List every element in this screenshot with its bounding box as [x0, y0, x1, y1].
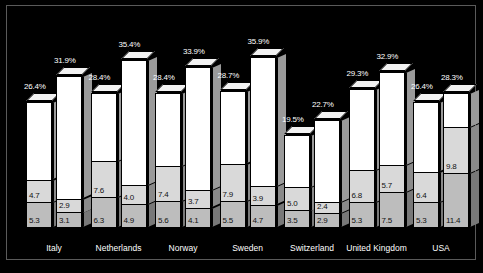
segment-bottom: 5.3 [26, 202, 52, 227]
segment-bottom: 11.4 [443, 173, 469, 227]
column-sweden-0[interactable]: 7.95.5 [220, 91, 246, 227]
top-face-plane [121, 51, 155, 59]
segment-value-label: 4.9 [124, 216, 135, 225]
column-total-label: 31.9% [54, 56, 76, 65]
segment-side-face [470, 124, 479, 173]
column-total-label: 28.4% [89, 73, 111, 82]
segment-value-label: 4.7 [29, 191, 40, 200]
segment-bottom: 5.3 [413, 202, 439, 227]
segment-bottom: 6.3 [91, 197, 117, 227]
column-top-face [443, 84, 477, 93]
segment-value-label: 6.4 [416, 191, 427, 200]
category-label-usa: USA [399, 243, 483, 253]
segment-bottom: 2.9 [314, 213, 340, 227]
top-face-plane [56, 67, 90, 75]
top-face-plane [379, 63, 413, 71]
column-italy-0[interactable]: 4.75.3 [26, 102, 52, 227]
plot-area: 4.75.326.4%2.93.131.9%Italy7.66.328.4%4.… [0, 0, 483, 273]
segment-value-label: 3.1 [59, 216, 70, 225]
segment-top [26, 102, 52, 179]
segment-value-label: 7.4 [158, 190, 169, 199]
segment-bottom: 3.5 [284, 210, 310, 227]
segment-value-label: 7.6 [94, 186, 105, 195]
column-total-label: 33.9% [183, 47, 205, 56]
column-total-label: 35.4% [119, 40, 141, 49]
column-norway-1[interactable]: 3.74.1 [185, 67, 211, 227]
segment-top [155, 93, 181, 166]
column-total-label: 26.4% [411, 82, 433, 91]
segment-bottom: 7.5 [379, 192, 405, 227]
column-italy-1[interactable]: 2.93.1 [56, 76, 82, 227]
segment-bottom: 5.3 [349, 202, 375, 227]
segment-middle: 5.0 [284, 187, 310, 211]
segment-value-label: 6.8 [352, 191, 363, 200]
segment-middle: 7.9 [220, 164, 246, 201]
segment-value-label: 7.9 [223, 190, 234, 199]
column-top-face [379, 63, 413, 72]
segment-value-label: 7.5 [382, 216, 393, 225]
segment-bottom: 4.7 [250, 205, 276, 227]
segment-middle: 3.9 [250, 186, 276, 204]
segment-top [413, 102, 439, 171]
segment-value-label: 5.0 [287, 199, 298, 208]
segment-top [250, 57, 276, 186]
segment-value-label: 3.5 [287, 216, 298, 225]
segment-value-label: 2.9 [317, 216, 328, 225]
column-sweden-1[interactable]: 3.94.7 [250, 57, 276, 227]
segment-value-label: 5.3 [416, 216, 427, 225]
segment-middle: 5.7 [379, 165, 405, 192]
column-top-face [413, 93, 447, 102]
column-top-face [121, 51, 155, 60]
top-face-plane [155, 84, 189, 92]
top-face-plane [185, 58, 219, 66]
segment-value-label: 4.7 [253, 216, 264, 225]
segment-middle: 3.7 [185, 190, 211, 207]
column-total-label: 26.4% [24, 82, 46, 91]
top-face-plane [250, 48, 284, 56]
segment-value-label: 5.6 [158, 216, 169, 225]
segment-top [443, 93, 469, 127]
segment-top [349, 89, 375, 170]
top-face-plane [413, 93, 447, 101]
column-total-label: 19.5% [282, 115, 304, 124]
segment-middle: 2.4 [314, 202, 340, 213]
column-top-face [56, 67, 90, 76]
column-usa-1[interactable]: 9.811.4 [443, 93, 469, 227]
segment-top [220, 91, 246, 163]
segment-bottom: 3.1 [56, 212, 82, 227]
column-top-face [220, 82, 254, 91]
column-total-label: 32.9% [377, 52, 399, 61]
segment-bottom: 4.1 [185, 208, 211, 227]
top-face-plane [220, 82, 254, 90]
column-switzerland-1[interactable]: 2.42.9 [314, 120, 340, 227]
column-usa-0[interactable]: 6.45.3 [413, 102, 439, 227]
column-norway-0[interactable]: 7.45.6 [155, 93, 181, 227]
column-total-label: 29.3% [347, 69, 369, 78]
segment-value-label: 5.5 [223, 216, 234, 225]
segment-value-label: 6.3 [94, 216, 105, 225]
chart-canvas: 4.75.326.4%2.93.131.9%Italy7.66.328.4%4.… [0, 0, 483, 273]
segment-middle: 6.4 [413, 172, 439, 202]
segment-bottom: 5.6 [155, 201, 181, 227]
column-total-label: 28.7% [218, 71, 240, 80]
segment-middle: 4.0 [121, 185, 147, 204]
column-switzerland-0[interactable]: 5.03.5 [284, 135, 310, 227]
column-netherlands-1[interactable]: 4.04.9 [121, 60, 147, 227]
column-top-face [349, 80, 383, 89]
segment-bottom: 5.5 [220, 201, 246, 227]
top-face-plane [284, 126, 318, 134]
column-total-label: 28.3% [441, 73, 463, 82]
segment-top [91, 93, 117, 161]
column-united-kingdom-0[interactable]: 6.85.3 [349, 89, 375, 227]
segment-value-label: 2.4 [317, 202, 328, 211]
segment-value-label: 3.7 [188, 197, 199, 206]
column-netherlands-0[interactable]: 7.66.3 [91, 93, 117, 227]
segment-value-label: 9.8 [446, 162, 457, 171]
segment-top [56, 76, 82, 198]
segment-middle: 6.8 [349, 170, 375, 202]
segment-value-label: 11.4 [446, 216, 460, 225]
column-united-kingdom-1[interactable]: 5.77.5 [379, 72, 405, 227]
segment-top [185, 67, 211, 190]
segment-top [284, 135, 310, 187]
column-top-face [185, 58, 219, 67]
